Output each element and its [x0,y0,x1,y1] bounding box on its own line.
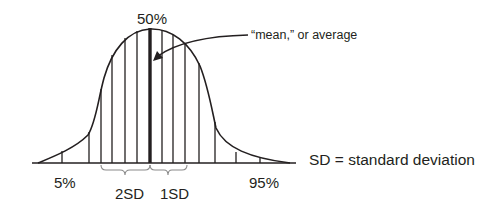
bell-curve [38,29,290,163]
sd-legend-label: SD = standard deviation [309,152,475,168]
left-tail-percent-label: 5% [54,175,76,190]
peak-percent-label: 50% [137,11,167,26]
one-sd-label: 1SD [160,186,189,201]
mean-note-label: “mean,” or average [251,29,357,42]
section-lines [62,30,260,163]
brace-2sd [101,165,150,175]
mean-arrow [158,35,248,56]
right-tail-percent-label: 95% [249,175,279,190]
brace-1sd [150,165,187,175]
two-sd-label: 2SD [115,186,144,201]
